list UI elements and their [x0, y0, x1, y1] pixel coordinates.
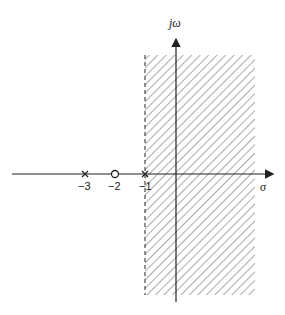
jw-axis-label: jω	[169, 16, 181, 31]
s-plane-diagram	[0, 0, 285, 315]
tick-label: −1	[139, 180, 152, 192]
tick-label: −2	[108, 180, 121, 192]
zero-marker-o	[112, 171, 119, 178]
tick-label: −3	[78, 180, 91, 192]
sigma-axis-label: σ	[260, 180, 266, 195]
roc-shaded-region	[145, 55, 255, 295]
